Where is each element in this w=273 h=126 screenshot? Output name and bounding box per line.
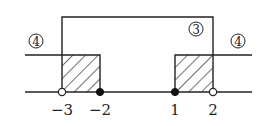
tick-label-minus-3: −3 [51, 101, 73, 119]
shaded-interval-left [62, 55, 100, 92]
closed-point-1 [171, 88, 178, 95]
tick-label-1: 1 [170, 101, 180, 119]
region-label-3: 3 [189, 22, 203, 37]
number-line-diagram: −3 −2 1 2 4 3 4 [0, 0, 273, 126]
tick-label-minus-2: −2 [89, 101, 111, 119]
shaded-interval-right [175, 55, 213, 92]
tick-label-2: 2 [208, 101, 218, 119]
svg-text:4: 4 [234, 35, 242, 49]
svg-text:4: 4 [32, 35, 40, 49]
region-label-4-left: 4 [29, 34, 43, 49]
open-point-2 [209, 88, 216, 95]
open-point-minus-3 [58, 88, 65, 95]
region-label-4-right: 4 [231, 34, 245, 49]
closed-point-minus-2 [96, 88, 103, 95]
svg-text:3: 3 [192, 23, 200, 37]
